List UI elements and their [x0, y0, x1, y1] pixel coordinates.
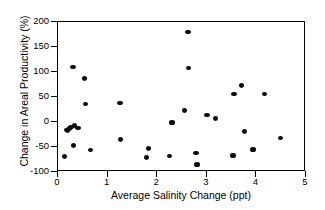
x-axis-tick-label: 5: [290, 176, 320, 187]
data-point: [82, 76, 87, 81]
data-point: [186, 66, 191, 71]
data-point: [169, 120, 174, 125]
y-axis-tick: [51, 121, 57, 122]
data-point: [144, 155, 149, 160]
data-point: [182, 108, 187, 113]
scatter-chart-figure: -100-50050100150200012345 Average Salini…: [0, 0, 325, 210]
data-point: [83, 102, 88, 107]
data-point: [62, 154, 67, 159]
data-point: [71, 143, 76, 148]
data-point: [167, 154, 172, 159]
data-point: [231, 92, 236, 97]
y-axis-tick: [51, 21, 57, 22]
data-point: [117, 101, 122, 106]
y-axis-title: Change in Areal Productivity (%): [18, 6, 30, 176]
data-point: [204, 113, 209, 118]
data-point: [118, 137, 123, 142]
data-point: [185, 30, 190, 35]
plot-area: [57, 21, 305, 171]
data-point: [146, 146, 151, 151]
x-axis-tick-label: 0: [42, 176, 72, 187]
data-point: [230, 153, 235, 158]
y-axis-tick: [51, 96, 57, 97]
data-point: [213, 116, 218, 121]
data-point: [75, 126, 80, 131]
data-point: [70, 65, 75, 70]
y-axis-tick: [51, 46, 57, 47]
data-point: [250, 147, 255, 152]
x-axis-tick-label: 4: [240, 176, 270, 187]
x-axis-tick-label: 2: [141, 176, 171, 187]
data-point: [278, 136, 283, 141]
data-point: [242, 129, 247, 134]
y-axis-tick: [51, 71, 57, 72]
x-axis-title: Average Salinity Change (ppt): [57, 189, 305, 201]
data-point: [88, 148, 93, 153]
x-axis-tick-label: 3: [191, 176, 221, 187]
y-axis-tick: [51, 146, 57, 147]
data-points-layer: [58, 22, 304, 170]
x-axis-tick-label: 1: [92, 176, 122, 187]
data-point: [194, 162, 199, 167]
data-point: [193, 151, 198, 156]
data-point: [239, 83, 244, 88]
data-point: [262, 92, 267, 97]
